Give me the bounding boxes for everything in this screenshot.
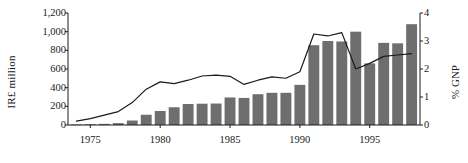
bar-1992 <box>322 41 333 125</box>
bar-1984 <box>211 104 222 125</box>
bar-1981 <box>169 107 180 125</box>
bar-1993 <box>336 41 347 125</box>
bar-1983 <box>197 104 208 125</box>
bar-1990 <box>294 85 305 125</box>
bar-1991 <box>308 45 319 125</box>
bar-1996 <box>378 43 389 125</box>
bar-1989 <box>280 93 291 125</box>
bar-1987 <box>253 94 264 125</box>
bar-1988 <box>266 93 277 125</box>
bar-1995 <box>364 63 375 125</box>
bar-1998 <box>406 24 417 125</box>
bar-1994 <box>350 32 361 125</box>
bar-1985 <box>225 97 236 125</box>
bar-1979 <box>141 115 152 125</box>
chart-figure: IR£ million 02004006008001,0001,200 0123… <box>0 0 468 163</box>
bar-1986 <box>239 98 250 125</box>
bar-1980 <box>155 111 166 125</box>
plot-area <box>0 0 468 163</box>
bar-1982 <box>183 104 194 125</box>
bar-1978 <box>127 121 138 125</box>
